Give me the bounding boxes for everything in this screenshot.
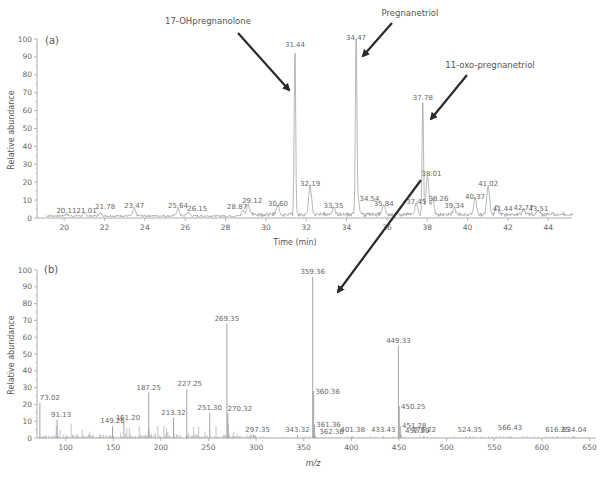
x-tick-label: 28 xyxy=(221,223,231,232)
panel-a-label: (a) xyxy=(45,35,59,46)
panel-b-y-axis-title: Relative abundance xyxy=(7,315,16,394)
peak-label: 524.35 xyxy=(458,426,483,434)
y-tick-label: 20 xyxy=(22,178,32,187)
y-tick-label: 40 xyxy=(22,366,32,375)
y-tick-label: 20 xyxy=(22,400,32,409)
peak-label: 41.02 xyxy=(478,180,498,188)
x-tick-label: 32 xyxy=(301,223,311,232)
x-tick-label: 550 xyxy=(487,443,502,452)
x-tick-label: 650 xyxy=(582,443,597,452)
y-tick-label: 80 xyxy=(22,70,32,79)
y-tick-label: 50 xyxy=(22,124,32,133)
x-tick-label: 150 xyxy=(106,443,121,452)
annotation-17-ohpregnanolone: 17-OHpregnanolone xyxy=(165,16,251,26)
x-tick-label: 600 xyxy=(535,443,550,452)
peak-label: 449.33 xyxy=(386,337,411,345)
y-tick-label: 60 xyxy=(22,106,32,115)
peak-label: 476.22 xyxy=(412,426,437,434)
mass-spectrum-panel-b: 0102030405060708090100100150200250300350… xyxy=(7,264,597,468)
peak-label: 161.20 xyxy=(116,414,141,422)
x-tick-label: 100 xyxy=(58,443,73,452)
x-tick-label: 500 xyxy=(439,443,454,452)
peak-label: 37.45 xyxy=(406,198,426,206)
peak-label: 34.47 xyxy=(346,34,366,42)
peak-label: 21.01 xyxy=(77,207,97,215)
panel-a-x-axis-title: Time (min) xyxy=(272,238,316,247)
peak-label: 401.38 xyxy=(340,426,365,434)
x-tick-label: 350 xyxy=(297,443,312,452)
peak-label: 26.15 xyxy=(187,205,207,213)
x-tick-label: 300 xyxy=(249,443,264,452)
peak-label: 433.43 xyxy=(371,426,396,434)
y-tick-label: 60 xyxy=(22,333,32,342)
y-tick-label: 10 xyxy=(22,417,32,426)
peak-label: 360.36 xyxy=(315,388,340,396)
peak-label: 297.35 xyxy=(245,426,270,434)
peak-label: 343.32 xyxy=(285,426,310,434)
annotations: 17-OHpregnanolone Pregnanetriol 11-oxo-p… xyxy=(165,8,535,292)
y-tick-label: 0 xyxy=(27,214,32,223)
peak-label: 29.12 xyxy=(242,197,262,205)
arrow-11-oxo-pregnanetriol-icon xyxy=(431,75,467,119)
peak-label: 35.84 xyxy=(374,200,395,208)
x-tick-label: 20 xyxy=(59,223,69,232)
panel-b-label: (b) xyxy=(44,264,58,275)
panel-a-y-axis-title: Relative abundance xyxy=(7,90,16,169)
peak-label: 251.30 xyxy=(197,404,222,412)
x-tick-label: 24 xyxy=(140,223,150,232)
x-tick-label: 34 xyxy=(342,223,352,232)
peak-label: 227.25 xyxy=(178,380,203,388)
x-tick-label: 200 xyxy=(154,443,169,452)
peak-label: 38.01 xyxy=(421,170,441,178)
y-tick-label: 90 xyxy=(22,282,32,291)
panel-b-x-axis-title: m/z xyxy=(306,459,321,468)
y-tick-label: 100 xyxy=(18,35,33,44)
peak-label: 213.32 xyxy=(161,409,186,417)
x-tick-label: 400 xyxy=(344,443,359,452)
y-tick-label: 100 xyxy=(18,266,33,275)
peak-label: 20.11 xyxy=(56,207,76,215)
peak-label: 91.13 xyxy=(51,411,71,419)
peak-label: 30.60 xyxy=(268,200,288,208)
peak-label: 39.34 xyxy=(444,202,465,210)
y-tick-label: 90 xyxy=(22,52,32,61)
peak-label: 566.43 xyxy=(498,424,523,432)
peak-label: 73.02 xyxy=(40,394,60,402)
peak-label: 32.19 xyxy=(300,180,320,188)
y-tick-label: 70 xyxy=(22,316,32,325)
x-tick-label: 26 xyxy=(180,223,190,232)
arrow-peak-to-spectrum-icon xyxy=(338,180,421,292)
peak-label: 25.64 xyxy=(168,202,189,210)
y-tick-label: 40 xyxy=(22,142,32,151)
annotation-pregnanetriol: Pregnanetriol xyxy=(382,8,439,18)
peak-label: 21.78 xyxy=(95,203,115,211)
x-tick-label: 22 xyxy=(100,223,110,232)
peak-label: 31.44 xyxy=(285,41,306,49)
x-tick-label: 250 xyxy=(201,443,216,452)
y-tick-label: 30 xyxy=(22,383,32,392)
peak-label: 43.51 xyxy=(528,205,548,213)
y-tick-label: 10 xyxy=(22,196,32,205)
y-tick-label: 80 xyxy=(22,299,32,308)
x-tick-label: 42 xyxy=(503,223,513,232)
y-tick-label: 50 xyxy=(22,350,32,359)
peak-label: 33.35 xyxy=(323,202,343,210)
peak-label: 634.04 xyxy=(562,426,587,434)
peak-label: 270.32 xyxy=(228,405,253,413)
x-tick-label: 38 xyxy=(422,223,432,232)
x-tick-label: 450 xyxy=(392,443,407,452)
arrow-17-ohpregnanolone-icon xyxy=(238,33,289,90)
x-tick-label: 44 xyxy=(544,223,554,232)
peak-label: 37.78 xyxy=(413,94,433,102)
peak-label: 40.37 xyxy=(465,193,485,201)
annotation-11-oxo-pregnanetriol: 11-oxo-pregnanetriol xyxy=(445,60,534,70)
arrow-pregnanetriol-icon xyxy=(363,23,392,56)
x-tick-label: 40 xyxy=(463,223,473,232)
peak-label: 359.36 xyxy=(300,268,325,276)
peak-label: 187.25 xyxy=(136,384,161,392)
x-tick-label: 30 xyxy=(261,223,271,232)
y-tick-label: 30 xyxy=(22,160,32,169)
peak-label: 269.35 xyxy=(215,315,240,323)
peak-label: 23.47 xyxy=(124,202,144,210)
y-tick-label: 70 xyxy=(22,88,32,97)
